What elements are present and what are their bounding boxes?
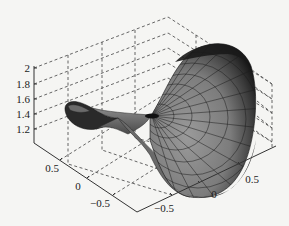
x-tick-labels: 0.5 0 −0.5 [45, 162, 110, 209]
surface-main-lobe [150, 44, 256, 198]
surface-center-pinch [145, 114, 159, 119]
y-tick-label: 0.5 [245, 173, 259, 185]
z-tick-label: 2 [25, 62, 31, 74]
x-tick-label: 0.5 [45, 162, 59, 174]
x-tick-label: 0 [75, 180, 81, 192]
z-tick-label: 1.8 [16, 78, 30, 90]
y-tick-label: −0.5 [154, 202, 174, 214]
z-tick-label: 1.4 [16, 108, 30, 120]
x-axis-line [34, 143, 137, 212]
surface-plot-figure: 2 1.8 1.6 1.4 1.2 0.5 0 −0.5 −0.5 0 0.5 [0, 0, 289, 226]
x-tick-label: −0.5 [90, 197, 110, 209]
y-tick-label: 0 [211, 188, 217, 200]
z-tick-label: 1.2 [16, 123, 30, 135]
plot-canvas: 2 1.8 1.6 1.4 1.2 0.5 0 −0.5 −0.5 0 0.5 [0, 0, 289, 226]
z-tick-labels: 2 1.8 1.6 1.4 1.2 [16, 62, 30, 135]
z-tick-label: 1.6 [16, 93, 30, 105]
surface [65, 38, 273, 202]
